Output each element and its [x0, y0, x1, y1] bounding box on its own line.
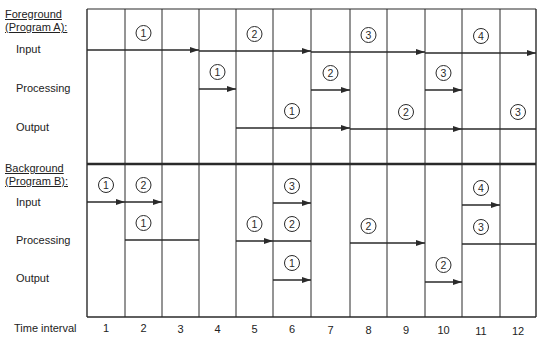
arrowhead-icon	[302, 48, 311, 54]
job-number-label: 2	[289, 218, 295, 230]
job-number-label: 4	[478, 182, 484, 194]
axis-tick-label: 7	[316, 324, 346, 336]
arrowhead-icon	[302, 277, 311, 283]
arrowhead-icon	[453, 126, 462, 132]
timeline-grid: 123412312312341122312	[0, 0, 543, 346]
arrowhead-icon	[264, 238, 273, 244]
job-number-label: 2	[328, 67, 334, 79]
arrowhead-icon	[116, 199, 125, 205]
job-number-label: 1	[289, 105, 295, 117]
axis-tick-label: 11	[466, 325, 496, 337]
job-number-label: 3	[366, 29, 372, 41]
arrowhead-icon	[453, 87, 462, 93]
job-number-label: 4	[478, 30, 484, 42]
axis-tick-label: 4	[203, 323, 233, 335]
job-number-label: 2	[141, 179, 147, 191]
job-number-label: 1	[141, 27, 147, 39]
axis-tick-label: 3	[166, 323, 196, 335]
job-number-label: 1	[252, 218, 258, 230]
axis-tick-label: 10	[429, 324, 459, 336]
job-number-label: 2	[441, 259, 447, 271]
axis-tick-label: 12	[503, 325, 533, 337]
arrowhead-icon	[190, 47, 199, 53]
job-number-label: 2	[252, 28, 258, 40]
job-number-label: 3	[515, 106, 521, 118]
arrowhead-icon	[341, 87, 350, 93]
job-number-label: 3	[478, 221, 484, 233]
axis-tick-label: 9	[391, 324, 421, 336]
arrowhead-icon	[453, 279, 462, 285]
axis-tick-label: 1	[91, 322, 121, 334]
arrowhead-icon	[491, 202, 500, 208]
axis-tick-label: 5	[240, 323, 270, 335]
arrowhead-icon	[416, 240, 425, 246]
axis-label: Time interval	[14, 322, 77, 334]
job-number-label: 2	[366, 220, 372, 232]
job-number-label: 1	[215, 66, 221, 78]
job-number-label: 1	[141, 217, 147, 229]
arrowhead-icon	[527, 50, 536, 56]
arrowhead-icon	[341, 125, 350, 131]
arrowhead-icon	[227, 86, 236, 92]
arrowhead-icon	[153, 199, 162, 205]
job-number-label: 3	[289, 180, 295, 192]
job-number-label: 1	[289, 257, 295, 269]
job-number-label: 1	[103, 179, 109, 191]
axis-tick-label: 6	[277, 323, 307, 335]
job-number-label: 2	[403, 106, 409, 118]
axis-tick-label: 8	[354, 324, 384, 336]
arrowhead-icon	[302, 200, 311, 206]
axis-tick-label: 2	[129, 322, 159, 334]
arrowhead-icon	[416, 49, 425, 55]
job-number-label: 3	[441, 67, 447, 79]
